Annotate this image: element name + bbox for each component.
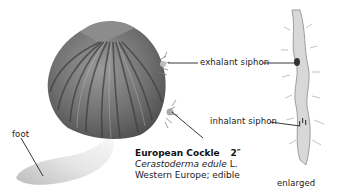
shell-shape xyxy=(48,21,166,139)
species-range-use: Western Europe; edible xyxy=(135,170,241,181)
enlarged-siphon-shape xyxy=(281,10,324,165)
species-author: L. xyxy=(230,159,238,169)
foot-label: foot xyxy=(12,129,29,139)
species-scientific-name: Cerastoderma edule xyxy=(135,159,227,169)
inhalant-siphon-label: inhalant siphon xyxy=(210,116,277,126)
enlarged-label: enlarged xyxy=(277,178,315,188)
species-common-name: European Cockle xyxy=(135,148,220,158)
exhalant-siphon-label: exhalant siphon xyxy=(200,57,269,67)
species-size: 2″ xyxy=(231,148,241,158)
species-caption: European Cockle 2″ Cerastoderma edule L.… xyxy=(135,148,241,181)
foot-shape xyxy=(16,132,114,185)
